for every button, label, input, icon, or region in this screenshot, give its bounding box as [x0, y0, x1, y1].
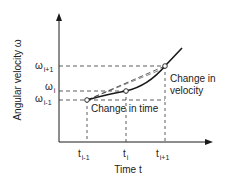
- change-in-velocity-label-line2: velocity: [170, 85, 203, 96]
- x-tick-t-i: ti: [123, 148, 129, 161]
- point-i-minus-1: [85, 98, 90, 103]
- x-tick-t-i-minus-1: ti-1: [78, 148, 90, 161]
- x-axis-arrow-icon: [205, 139, 213, 145]
- y-axis-arrow-icon: [56, 13, 62, 21]
- x-axis-label: Time t: [114, 164, 142, 175]
- y-axis-label: Angular velocity ω: [12, 39, 23, 120]
- change-in-velocity-label-line1: Change in: [170, 73, 216, 84]
- y-tick-omega-i-minus-1: ωi-1: [35, 93, 52, 106]
- x-tick-t-i-plus-1: ti+1: [156, 148, 169, 161]
- change-in-time-label: Change in time: [91, 103, 159, 114]
- secant-line-lower: [87, 68, 165, 100]
- y-tick-omega-i-plus-1: ωi+1: [35, 60, 53, 73]
- angular-velocity-diagram: ωi+1 ωi ωi-1 ti-1 ti ti+1 Time t Angular…: [0, 0, 239, 183]
- y-tick-omega-i: ωi: [45, 81, 56, 94]
- point-i: [124, 89, 129, 94]
- velocity-curve: [87, 48, 182, 100]
- point-i-plus-1: [163, 64, 168, 69]
